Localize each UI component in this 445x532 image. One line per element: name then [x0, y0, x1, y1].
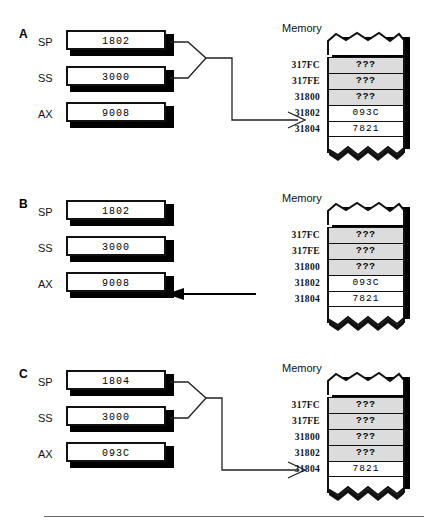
register-box-sp[interactable]: 1802	[66, 200, 170, 224]
register-label-sp: SP	[38, 36, 62, 48]
memory-cell-grid: ??? ??? ??? ??? 7821	[327, 397, 405, 477]
register-box-ax[interactable]: 9008	[66, 272, 170, 296]
memory-address-31802: 31802	[295, 448, 320, 458]
register-box-ax[interactable]: 093C	[66, 442, 170, 466]
register-value-ss: 3000	[68, 68, 164, 88]
memory-title: Memory	[282, 192, 322, 204]
memory-torn-bottom-edge	[327, 305, 417, 335]
memory-address-317fc: 317FC	[292, 230, 320, 240]
memory-cell: ???	[327, 259, 405, 275]
register-box-frame: 1802	[66, 30, 166, 50]
register-box-frame: 3000	[66, 406, 166, 426]
memory-cell-grid: ??? ??? ??? 093C 7821	[327, 57, 405, 137]
memory-title: Memory	[282, 362, 322, 374]
memory-cell: ???	[327, 413, 405, 429]
panel-letter-b: B	[19, 197, 28, 211]
memory-block: ??? ??? ??? 093C 7821	[327, 31, 417, 157]
memory-block: ??? ??? ??? ??? 7821	[327, 371, 417, 497]
register-box-frame: 9008	[66, 272, 166, 292]
memory-address-column: 317FC 317FE 31800 31802 31804	[258, 400, 320, 490]
memory-address-31804: 31804	[295, 464, 320, 474]
memory-address-317fc: 317FC	[292, 60, 320, 70]
memory-block: ??? ??? ??? 093C 7821	[327, 201, 417, 327]
register-value-sp: 1804	[68, 372, 164, 392]
register-label-ss: SS	[38, 242, 62, 254]
panel-c: C SP 1804 SS 3000 AX	[0, 362, 445, 527]
register-value-ax: 9008	[68, 274, 164, 294]
register-box-ss[interactable]: 3000	[66, 66, 170, 90]
register-value-ss: 3000	[68, 238, 164, 258]
register-value-ax: 093C	[68, 444, 164, 464]
memory-cell: ???	[327, 73, 405, 89]
panel-b: B SP 1802 SS 3000 AX	[0, 192, 445, 357]
register-label-sp: SP	[38, 376, 62, 388]
register-box-sp[interactable]: 1804	[66, 370, 170, 394]
panel-a: A SP 1802 SS 3000 AX	[0, 22, 445, 187]
memory-cell: ???	[327, 429, 405, 445]
register-box-ss[interactable]: 3000	[66, 236, 170, 260]
memory-cell: ???	[327, 243, 405, 259]
register-label-ax: AX	[38, 278, 62, 290]
panel-letter-a: A	[19, 27, 28, 41]
register-box-ax[interactable]: 9008	[66, 102, 170, 126]
memory-torn-bottom-edge	[327, 475, 417, 505]
register-value-ax: 9008	[68, 104, 164, 124]
memory-cell: ???	[327, 397, 405, 413]
memory-title: Memory	[282, 22, 322, 34]
register-label-ss: SS	[38, 412, 62, 424]
memory-cell: 093C	[327, 275, 405, 291]
memory-address-317fe: 317FE	[292, 416, 320, 426]
register-box-frame: 3000	[66, 66, 166, 86]
memory-address-31800: 31800	[295, 262, 320, 272]
memory-torn-bottom-edge	[327, 135, 417, 165]
register-label-ax: AX	[38, 108, 62, 120]
stack-operation-figure: A SP 1802 SS 3000 AX	[0, 0, 445, 532]
register-box-frame: 9008	[66, 102, 166, 122]
memory-address-317fe: 317FE	[292, 76, 320, 86]
register-box-frame: 1802	[66, 200, 166, 220]
memory-address-31804: 31804	[295, 294, 320, 304]
memory-address-31800: 31800	[295, 92, 320, 102]
register-label-sp: SP	[38, 206, 62, 218]
register-value-sp: 1802	[68, 32, 164, 52]
memory-address-31802: 31802	[295, 278, 320, 288]
memory-address-31804: 31804	[295, 124, 320, 134]
memory-cell: 093C	[327, 105, 405, 121]
memory-cell: ???	[327, 89, 405, 105]
register-value-sp: 1802	[68, 202, 164, 222]
register-value-ss: 3000	[68, 408, 164, 428]
panel-letter-c: C	[19, 367, 28, 381]
memory-cell: ???	[327, 227, 405, 243]
register-label-ax: AX	[38, 448, 62, 460]
register-box-frame: 093C	[66, 442, 166, 462]
memory-address-317fc: 317FC	[292, 400, 320, 410]
bottom-divider-rule	[44, 516, 424, 517]
memory-address-31800: 31800	[295, 432, 320, 442]
register-box-ss[interactable]: 3000	[66, 406, 170, 430]
memory-cell-grid: ??? ??? ??? 093C 7821	[327, 227, 405, 307]
register-box-sp[interactable]: 1802	[66, 30, 170, 54]
register-box-frame: 1804	[66, 370, 166, 390]
memory-address-31802: 31802	[295, 108, 320, 118]
memory-address-column: 317FC 317FE 31800 31802 31804	[258, 230, 320, 320]
memory-cell: ???	[327, 445, 405, 461]
register-label-ss: SS	[38, 72, 62, 84]
memory-cell: ???	[327, 57, 405, 73]
memory-address-column: 317FC 317FE 31800 31802 31804	[258, 60, 320, 150]
register-box-frame: 3000	[66, 236, 166, 256]
memory-address-317fe: 317FE	[292, 246, 320, 256]
